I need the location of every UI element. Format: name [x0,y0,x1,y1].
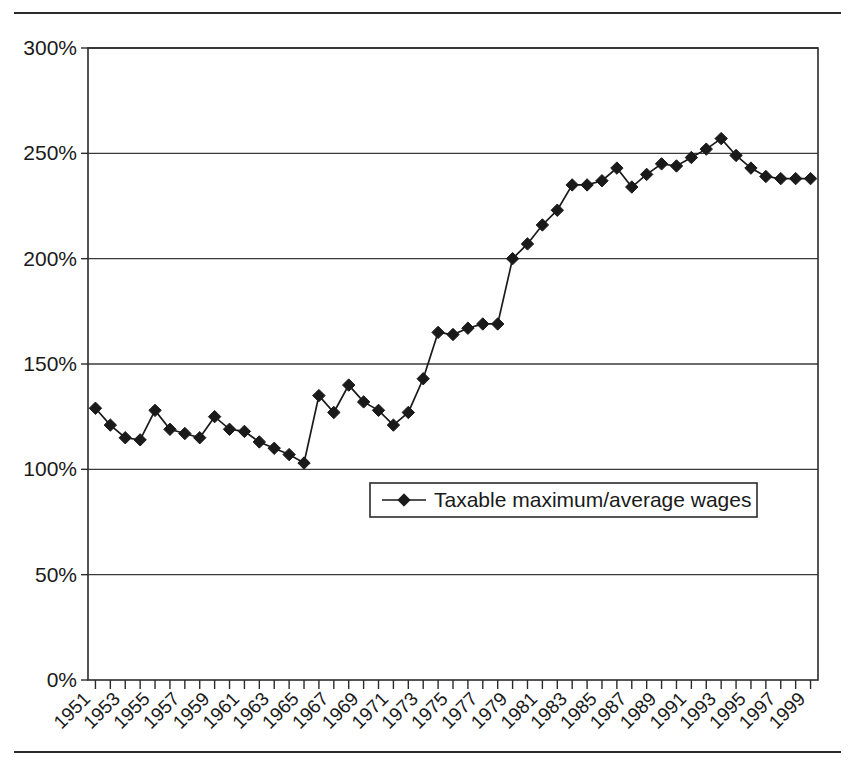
y-tick-label: 300% [23,36,77,59]
data-point-marker [670,160,682,172]
data-point-marker [491,318,503,330]
data-point-marker [238,425,250,437]
chart-legend[interactable]: Taxable maximum/average wages [370,483,757,517]
x-axis-tick-marks [95,680,810,689]
y-tick-label: 250% [23,141,77,164]
data-point-marker [447,328,459,340]
y-tick-label: 0% [47,668,77,691]
data-point-marker [775,172,787,184]
figure-page: 0%50%100%150%200%250%300% 19511953195519… [0,0,855,766]
data-point-marker [417,373,429,385]
data-series-taxable-maximum-average-wages [89,132,817,469]
data-point-marker [134,434,146,446]
data-point-marker [194,432,206,444]
data-point-marker [789,172,801,184]
data-point-marker [283,448,295,460]
data-point-marker [462,322,474,334]
y-tick-label: 200% [23,247,77,270]
data-point-marker [581,179,593,191]
y-tick-label: 150% [23,352,77,375]
data-point-marker [477,318,489,330]
x-axis-tick-labels: 1951195319551957195919611963196519671969… [50,688,810,733]
data-point-marker [760,170,772,182]
data-point-marker [566,179,578,191]
line-chart: 0%50%100%150%200%250%300% 19511953195519… [0,0,855,766]
data-point-marker [179,427,191,439]
data-point-marker [298,457,310,469]
legend-entry-label: Taxable maximum/average wages [434,488,751,511]
data-point-marker [655,158,667,170]
data-point-marker [432,326,444,338]
y-axis-tick-labels: 0%50%100%150%200%250%300% [23,36,88,691]
data-point-marker [268,442,280,454]
y-tick-label: 50% [35,563,77,586]
data-point-marker [804,172,816,184]
y-tick-label: 100% [23,457,77,480]
data-point-marker [253,436,265,448]
series-polyline [95,139,810,463]
